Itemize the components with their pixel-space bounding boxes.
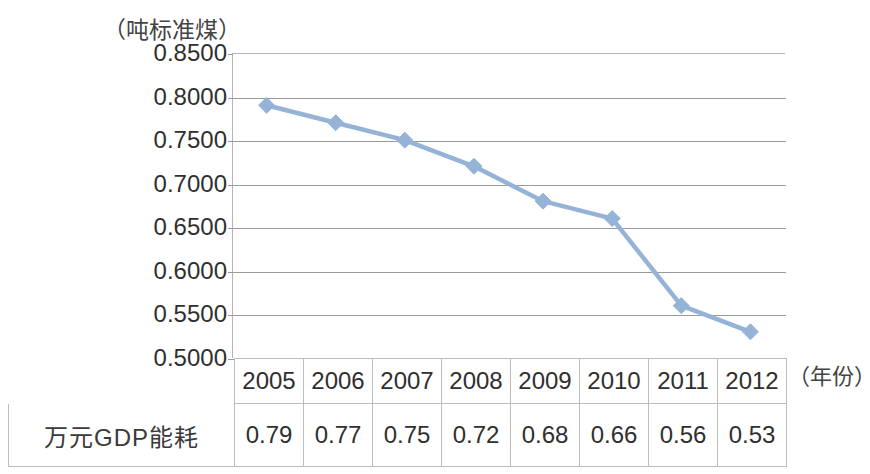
- table-column-header: 2009: [511, 359, 580, 404]
- data-point-marker: [259, 97, 275, 113]
- data-point-marker: [466, 158, 482, 174]
- data-point-marker: [328, 115, 344, 131]
- data-point-marker: [397, 132, 413, 148]
- table-column-header: 2007: [373, 359, 442, 404]
- series-line: [267, 105, 751, 332]
- table-cell: 0.72: [442, 404, 511, 467]
- table-cell: 0.77: [304, 404, 373, 467]
- data-table: 20052006200720082009201020112012 万元GDP能耗…: [8, 358, 787, 467]
- table-column-header: 2005: [235, 359, 304, 404]
- series-line-group: [232, 53, 785, 358]
- table-cell: 0.75: [373, 404, 442, 467]
- x-axis-unit-label: （年份）: [788, 358, 870, 390]
- table-column-header: 2008: [442, 359, 511, 404]
- table-cell: 0.53: [718, 404, 787, 467]
- table-column-header: 2010: [580, 359, 649, 404]
- y-axis-tick-label: 0.8000: [131, 83, 227, 111]
- table-column-header: 2011: [649, 359, 718, 404]
- table-row: 万元GDP能耗 0.790.770.750.720.680.660.560.53: [9, 404, 787, 467]
- table-header-corner: [9, 359, 235, 404]
- table-cell: 0.79: [235, 404, 304, 467]
- table-column-header: 2012: [718, 359, 787, 404]
- y-axis-tick-label: 0.6500: [131, 213, 227, 241]
- table-row-label: 万元GDP能耗: [9, 404, 235, 467]
- y-axis-tick-label: 0.7500: [131, 126, 227, 154]
- y-axis-tick-label: 0.6000: [131, 257, 227, 285]
- y-axis-tick-labels: 0.85000.80000.75000.70000.65000.60000.55…: [131, 53, 227, 358]
- data-point-marker: [535, 193, 551, 209]
- table-header-row: 20052006200720082009201020112012: [9, 359, 787, 404]
- data-point-marker: [742, 324, 758, 340]
- y-axis-tick-label: 0.5500: [131, 300, 227, 328]
- y-axis-tick-label: 0.8500: [131, 39, 227, 67]
- table-column-header: 2006: [304, 359, 373, 404]
- table-cell: 0.68: [511, 404, 580, 467]
- table-cell: 0.66: [580, 404, 649, 467]
- y-axis-tick-label: 0.7000: [131, 170, 227, 198]
- table-cell: 0.56: [649, 404, 718, 467]
- chart-figure: （吨标准煤） 0.85000.80000.75000.70000.65000.6…: [0, 0, 870, 474]
